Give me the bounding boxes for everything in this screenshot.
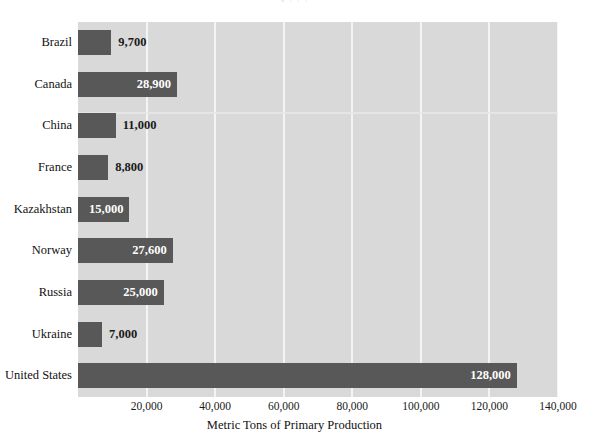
bar[interactable] [78,30,111,55]
bar-value-label: 7,000 [109,322,137,347]
x-tick-label: 120,000 [471,400,508,412]
bar-value-label: 27,600 [132,238,166,263]
x-axis-ticks: 20,00040,00060,00080,000100,000120,00014… [78,398,558,420]
bar-chart: • · · · BrazilCanadaChinaFranceKazakhsta… [0,0,589,444]
bar-row: 8,800 [78,147,558,189]
bar[interactable] [78,363,517,388]
category-label-ukraine: Ukraine [0,314,72,356]
plot-area: 9,70028,90011,0008,80015,00027,60025,000… [78,22,558,397]
category-label-kazakhstan: Kazakhstan [0,189,72,231]
bar[interactable] [78,322,102,347]
bar-row: 128,000 [78,355,558,397]
bar-row: 7,000 [78,314,558,356]
category-label-canada: Canada [0,64,72,106]
x-axis-label: Metric Tons of Primary Production [0,418,589,433]
bar-row: 15,000 [78,189,558,231]
bar-value-label: 11,000 [123,113,157,138]
bar[interactable] [78,155,108,180]
bar-value-label: 15,000 [89,197,123,222]
x-tick-label: 60,000 [268,400,300,412]
bar-value-label: 8,800 [115,155,143,180]
x-tick-label: 140,000 [539,400,576,412]
bar-value-label: 25,000 [123,280,157,305]
x-tick-label: 100,000 [402,400,439,412]
x-tick-label: 20,000 [131,400,163,412]
bar-rows: 9,70028,90011,0008,80015,00027,60025,000… [78,22,558,397]
category-label-norway: Norway [0,230,72,272]
category-label-france: France [0,147,72,189]
category-axis-labels: BrazilCanadaChinaFranceKazakhstanNorwayR… [0,22,72,397]
category-label-russia: Russia [0,272,72,314]
category-label-united-states: United States [0,355,72,397]
bar-row: 11,000 [78,105,558,147]
x-tick-label: 80,000 [336,400,368,412]
bar-row: 28,900 [78,64,558,106]
x-tick-label: 40,000 [199,400,231,412]
category-label-china: China [0,105,72,147]
bar[interactable] [78,113,116,138]
bar-value-label: 28,900 [137,72,171,97]
bar-row: 9,700 [78,22,558,64]
bar-row: 25,000 [78,272,558,314]
category-label-brazil: Brazil [0,22,72,64]
bar-row: 27,600 [78,230,558,272]
bar-value-label: 128,000 [470,363,511,388]
chart-title-cropped: • · · · [0,0,589,2]
bar-value-label: 9,700 [118,30,146,55]
